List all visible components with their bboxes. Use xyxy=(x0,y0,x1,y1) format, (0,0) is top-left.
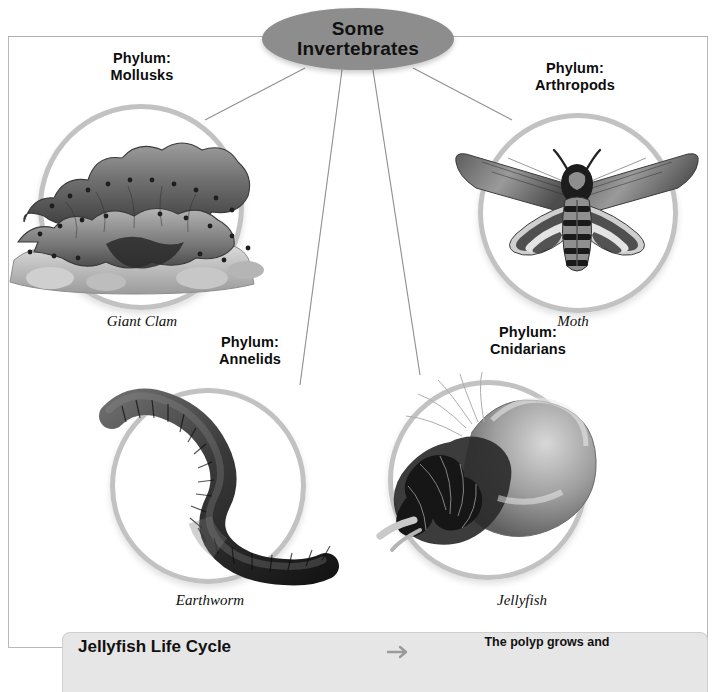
photo-jellyfish xyxy=(380,372,605,587)
caption-giant-clam: Giant Clam xyxy=(72,313,212,330)
caption-jellyfish: Jellyfish xyxy=(452,592,592,609)
jellyfish-life-cycle-step-text: The polyp grows and xyxy=(452,635,642,651)
phylum-label-cnidarians: Phylum: Cnidarians xyxy=(458,324,598,358)
photo-giant-clam xyxy=(10,110,275,310)
center-title-line1: Some xyxy=(332,18,385,39)
center-node: Some Invertebrates xyxy=(262,8,454,70)
phylum-label-arthropods: Phylum: Arthropods xyxy=(500,60,650,94)
photo-moth xyxy=(452,138,702,290)
phylum-label-annelids: Phylum: Annelids xyxy=(185,334,315,368)
center-title-line2: Invertebrates xyxy=(297,38,419,59)
frame-rule-left xyxy=(8,36,266,37)
arrow-right-icon xyxy=(386,645,412,659)
frame-rule-right xyxy=(452,36,708,37)
center-node-title: Some Invertebrates xyxy=(297,19,419,59)
photo-earthworm xyxy=(96,384,336,594)
caption-earthworm: Earthworm xyxy=(140,592,280,609)
phylum-label-mollusks: Phylum: Mollusks xyxy=(72,50,212,84)
jellyfish-life-cycle-title: Jellyfish Life Cycle xyxy=(78,637,231,657)
